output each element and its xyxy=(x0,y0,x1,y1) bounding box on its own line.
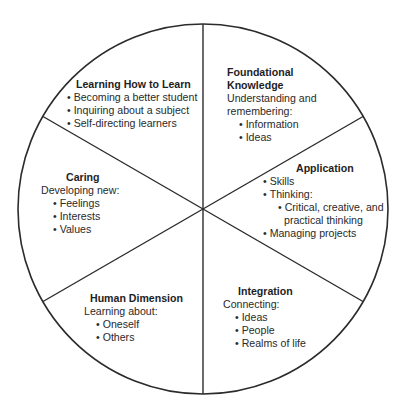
segment-item: Realms of life xyxy=(223,337,306,350)
segment-foundational-knowledge: Foundational Knowledge Understanding and… xyxy=(227,66,317,144)
segment-item: Feelings xyxy=(41,197,119,210)
segment-title: Knowledge xyxy=(227,79,317,92)
segment-human-dimension: Human Dimension Learning about: Oneself … xyxy=(84,292,183,344)
segment-learning-how-to-learn: Learning How to Learn Becoming a better … xyxy=(67,78,197,130)
segment-title: Caring xyxy=(41,171,119,184)
segment-integration: Integration Connecting: Ideas People Rea… xyxy=(223,285,306,350)
segment-title: Application xyxy=(263,162,384,175)
segment-title: Integration xyxy=(223,285,306,298)
segment-item: Becoming a better student xyxy=(67,91,197,104)
segment-application: Application Skills Thinking: Critical, c… xyxy=(263,162,384,240)
segment-title: Learning How to Learn xyxy=(67,78,197,91)
segment-subitem-cont: practical thinking xyxy=(263,214,384,227)
segment-item: Oneself xyxy=(84,318,183,331)
segment-item: Self-directing learners xyxy=(67,117,197,130)
segment-intro: Connecting: xyxy=(223,298,306,311)
segment-intro: remembering: xyxy=(227,105,317,118)
segment-item: Managing projects xyxy=(263,227,384,240)
segment-intro: Learning about: xyxy=(84,305,183,318)
segment-item: People xyxy=(223,324,306,337)
segment-item: Skills xyxy=(263,175,384,188)
segment-title: Foundational xyxy=(227,66,317,79)
segment-intro: Understanding and xyxy=(227,92,317,105)
segment-intro: Developing new: xyxy=(41,184,119,197)
segment-caring: Caring Developing new: Feelings Interest… xyxy=(41,171,119,236)
segment-item: Inquiring about a subject xyxy=(67,104,197,117)
segment-item: Ideas xyxy=(227,131,317,144)
segment-title: Human Dimension xyxy=(84,292,183,305)
segment-item: Ideas xyxy=(223,311,306,324)
segment-item: Information xyxy=(227,118,317,131)
segment-item: Others xyxy=(84,331,183,344)
segment-subitem: Critical, creative, and xyxy=(263,201,384,214)
segment-item: Interests xyxy=(41,210,119,223)
segment-item: Values xyxy=(41,223,119,236)
segment-item: Thinking: xyxy=(263,188,384,201)
